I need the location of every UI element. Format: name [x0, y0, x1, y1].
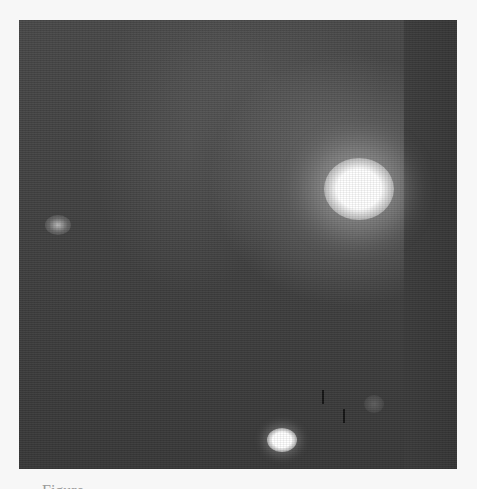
micrograph-image [19, 20, 457, 469]
noise-texture [19, 20, 457, 469]
figure-caption: Figure [42, 477, 462, 489]
